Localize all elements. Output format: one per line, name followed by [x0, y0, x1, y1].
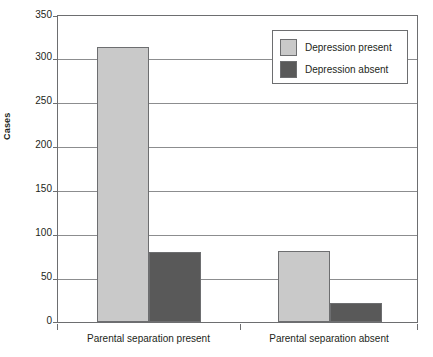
y-axis-tick-150	[53, 191, 58, 192]
legend: Depression present Depression absent	[272, 30, 408, 84]
bar-sep-present-depression-present	[97, 47, 149, 322]
y-axis-tick-label-50: 50	[18, 272, 52, 282]
y-axis-tick-50	[53, 279, 58, 280]
y-axis-tick-label-350: 350	[18, 10, 52, 20]
y-axis-tick-350	[53, 16, 58, 17]
y-axis-tick-label-200: 200	[18, 140, 52, 150]
y-axis-tick-label-100: 100	[18, 228, 52, 238]
legend-swatch-depression-absent	[280, 61, 297, 78]
y-axis-tick-label-250: 250	[18, 96, 52, 106]
y-axis-title-label: Cases	[2, 80, 12, 140]
y-axis-title: Cases	[2, 80, 12, 140]
legend-swatch-depression-present	[280, 39, 297, 56]
x-axis-tick-right	[417, 324, 418, 330]
bar-sep-present-depression-absent	[149, 252, 201, 322]
legend-item-depression-present: Depression present	[280, 36, 407, 58]
legend-item-depression-absent: Depression absent	[280, 58, 407, 80]
y-axis-tick-label-150: 150	[18, 184, 52, 194]
bar-sep-absent-depression-present	[278, 251, 330, 322]
y-axis-tick-label-300: 300	[18, 52, 52, 62]
legend-label-depression-present: Depression present	[305, 42, 392, 53]
y-axis-tick-0	[53, 322, 58, 323]
x-axis-tick-middle	[240, 324, 241, 330]
y-axis-tick-200	[53, 147, 58, 148]
x-axis-label-parental-separation-present: Parental separation present	[57, 333, 240, 345]
y-axis-tick-250	[53, 103, 58, 104]
y-axis-tick-100	[53, 235, 58, 236]
bar-sep-absent-depression-absent	[330, 303, 382, 322]
legend-label-depression-absent: Depression absent	[305, 64, 388, 75]
bar-chart: Cases 350 300 250 200 150 100 50 0	[0, 0, 433, 357]
x-axis-tick-left	[57, 324, 58, 330]
x-axis-label-parental-separation-absent: Parental separation absent	[240, 333, 418, 345]
y-axis-tick-label-0: 0	[18, 316, 52, 326]
y-axis-tick-300	[53, 59, 58, 60]
